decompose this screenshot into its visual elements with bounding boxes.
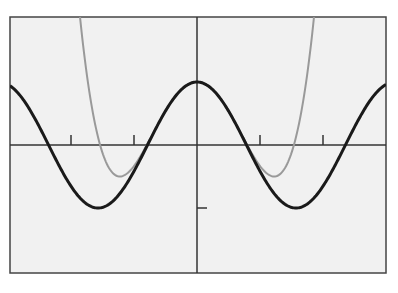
chart (0, 0, 398, 293)
